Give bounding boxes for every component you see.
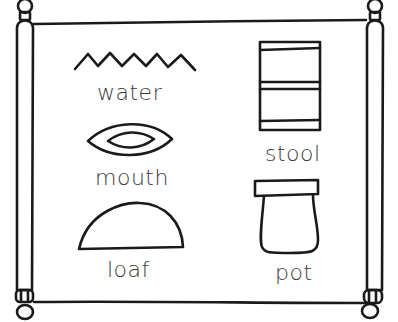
paper-top-edge	[34, 20, 366, 24]
glyph-label-mouth: mouth	[95, 167, 169, 189]
lidded-pot-icon	[255, 180, 318, 253]
scroll-frame	[0, 0, 398, 322]
glyph-label-pot: pot	[275, 262, 313, 284]
eye-shaped-mouth-icon	[88, 124, 172, 155]
glyph-label-stool: stool	[265, 143, 321, 165]
rectangular-stool-icon	[260, 42, 320, 130]
glyph-label-loaf: loaf	[107, 259, 150, 281]
left-scroll-rod	[16, 0, 33, 319]
half-dome-loaf-icon	[79, 203, 183, 249]
right-scroll-rod	[362, 0, 383, 318]
zigzag-water-icon	[75, 53, 195, 70]
scroll-illustration: water mouth loaf stool pot	[0, 0, 398, 322]
paper-bottom-edge	[34, 302, 366, 303]
glyph-label-water: water	[97, 82, 162, 104]
